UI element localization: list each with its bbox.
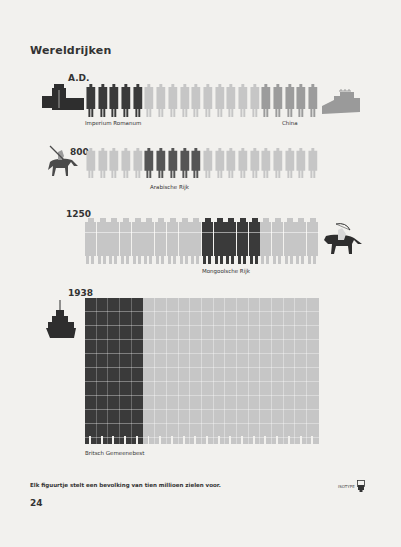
stack-divider	[85, 232, 319, 233]
isotype-logo-text: ISOTYPE	[338, 484, 355, 489]
label-china: China	[282, 120, 298, 126]
footnote: Elk figuurtje stelt een bevolking van ti…	[30, 482, 221, 488]
page-title: Wereldrijken	[30, 44, 111, 57]
year-label-ad: A.D.	[68, 73, 89, 83]
isotype-logo: ISOTYPE	[338, 480, 365, 492]
label-mongoolsche-rijk: Mongoolsche Rijk	[202, 268, 250, 274]
mongol-archer-horseman-icon	[322, 222, 366, 256]
battleship-icon	[46, 300, 76, 338]
isotype-figure-icon	[357, 480, 365, 492]
great-wall-icon	[322, 88, 362, 116]
castle-wall-icon	[40, 84, 84, 114]
label-britsch-gemeenebest: Britsch Gemeenebest	[85, 450, 144, 456]
page: Wereldrijken A.D. Imperium Romanum Ch	[0, 0, 401, 547]
label-imperium-romanum: Imperium Romanum	[85, 120, 141, 126]
page-number: 24	[30, 498, 43, 508]
row-ad-figures	[85, 84, 319, 117]
row-1250-figures	[85, 218, 319, 264]
row-800-figures	[85, 148, 319, 178]
label-arabische-rijk: Arabische Rijk	[150, 184, 189, 190]
row-1938-figures	[85, 298, 319, 444]
year-label-1938: 1938	[68, 288, 93, 298]
legs-gap	[85, 436, 319, 444]
